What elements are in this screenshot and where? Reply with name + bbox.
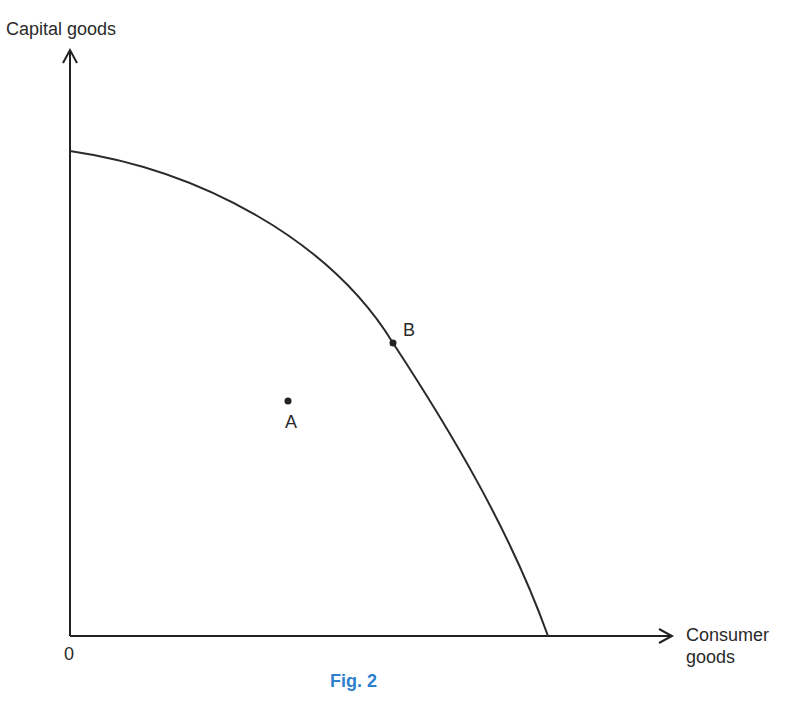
figure-caption: Fig. 2 xyxy=(330,671,377,692)
y-axis-label: Capital goods xyxy=(6,19,116,40)
point-a xyxy=(285,398,292,405)
ppf-curve xyxy=(70,151,548,636)
point-b xyxy=(390,340,397,347)
point-b-label: B xyxy=(403,320,415,341)
point-a-label: A xyxy=(285,412,297,433)
ppf-chart xyxy=(0,0,803,711)
origin-label: 0 xyxy=(64,644,74,665)
x-axis-label: Consumer goods xyxy=(686,624,766,668)
